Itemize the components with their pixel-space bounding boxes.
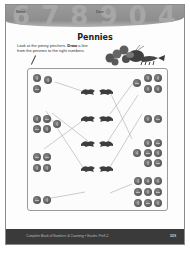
lobster-mascot-icon — [102, 44, 168, 66]
penny-coin-icon — [144, 188, 152, 196]
book-title: Complete Book of Numbers & Counting • Gr… — [26, 234, 109, 238]
penny-coin-icon — [43, 153, 51, 161]
penny-coin-icon — [134, 199, 142, 207]
penny-coin-icon — [144, 85, 152, 93]
penny-coin-icon — [33, 74, 41, 82]
penny-coin-icon — [154, 199, 162, 207]
penny-coin-icon — [144, 139, 152, 147]
penny-coin-icon — [33, 196, 41, 204]
workbook-page: 6 7 8 9 0 4 Name Date Pennies Look at th… — [5, 4, 185, 245]
penny-coin-icon — [134, 188, 142, 196]
penny-coin-icon — [133, 149, 141, 157]
instructions: Look at the penny pinchers. Draw a line … — [17, 44, 95, 53]
footer-band: Complete Book of Numbers & Counting • Gr… — [6, 229, 184, 244]
penny-coin-icon — [33, 125, 41, 133]
penny-coin-icon — [154, 177, 162, 185]
penny-coin-icon — [154, 115, 162, 123]
penny-coin-icon — [43, 115, 51, 123]
matching-area — [27, 68, 168, 211]
number-crab-icon — [98, 140, 114, 148]
number-crab-icon — [80, 165, 96, 173]
penny-coin-icon — [154, 85, 162, 93]
page-title: Pennies — [6, 33, 184, 42]
penny-coin-icon — [33, 153, 41, 161]
penny-coin-icon — [53, 120, 61, 128]
number-crab-icon — [98, 165, 114, 173]
page-number: 329 — [170, 234, 176, 238]
penny-coin-icon — [144, 159, 152, 167]
penny-coin-icon — [144, 199, 152, 207]
penny-coin-icon — [33, 164, 41, 172]
penny-coin-icon — [43, 125, 51, 133]
penny-coin-icon — [154, 159, 162, 167]
penny-coin-icon — [154, 188, 162, 196]
penny-coin-icon — [154, 74, 162, 82]
penny-coin-icon — [44, 76, 52, 84]
penny-coin-icon — [33, 85, 41, 93]
number-crab-icon — [98, 88, 114, 96]
date-label: Date — [96, 10, 104, 14]
penny-coin-icon — [133, 79, 141, 87]
number-crab-icon — [98, 115, 114, 123]
header-band: 6 7 8 9 0 4 Name Date — [6, 5, 184, 27]
penny-coin-icon — [144, 177, 152, 185]
penny-coin-icon — [144, 115, 152, 123]
penny-coin-icon — [33, 115, 41, 123]
number-crab-icon — [80, 115, 96, 123]
penny-coin-icon — [43, 196, 51, 204]
penny-coin-icon — [154, 149, 162, 157]
pointer-line — [31, 55, 36, 64]
penny-coin-icon — [154, 139, 162, 147]
number-crab-icon — [80, 140, 96, 148]
number-crab-icon — [80, 88, 96, 96]
penny-coin-icon — [144, 74, 152, 82]
name-label: Name — [16, 10, 26, 14]
penny-coin-icon — [43, 164, 51, 172]
penny-coin-icon — [134, 177, 142, 185]
penny-coin-icon — [144, 149, 152, 157]
decorative-digits: 6 7 8 9 0 4 — [12, 5, 177, 27]
